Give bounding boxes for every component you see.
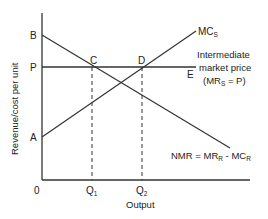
mcs-label: MCS (198, 26, 219, 38)
label-b: B (30, 30, 37, 41)
diagram-canvas: B P A C D E 0 Q1 Q2 Output Revenue/cost … (0, 0, 268, 219)
label-d: D (138, 55, 145, 66)
origin-label: 0 (34, 185, 40, 196)
price-label-line1: Intermediate (197, 49, 250, 60)
q2-label: Q2 (136, 185, 148, 197)
label-e: E (187, 69, 194, 80)
price-label-line3: (MRS = P) (203, 75, 246, 87)
label-c: C (90, 55, 97, 66)
y-axis-label: Revenue/cost per unit (9, 62, 20, 155)
label-a: A (30, 132, 37, 143)
q1-label: Q1 (86, 185, 98, 197)
label-p: P (30, 62, 37, 73)
price-label-line2: market price (199, 62, 251, 73)
mcs-line (42, 31, 196, 137)
x-axis-label: Output (126, 199, 155, 210)
nmr-label: NMR = MRR - MCR (171, 150, 251, 162)
